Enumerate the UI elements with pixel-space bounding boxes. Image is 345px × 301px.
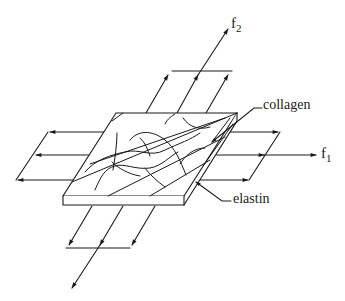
- f2-arrow: [198, 29, 228, 75]
- f1-label: f1: [321, 146, 332, 161]
- f2-label-subscript: 2: [236, 22, 242, 34]
- f2-opposite-arrow: [72, 245, 100, 288]
- f1-label-subscript: 1: [326, 152, 332, 164]
- elastin-label: elastin: [233, 192, 270, 206]
- elastin-leader: [196, 182, 231, 201]
- tissue-slab: [63, 113, 237, 205]
- biaxial-tissue-diagram: [0, 0, 345, 301]
- collagen-label: collagen: [263, 98, 310, 112]
- bottom-force-bracket: [66, 206, 155, 288]
- top-force-bracket: [146, 29, 232, 113]
- f2-label: f2: [231, 16, 242, 31]
